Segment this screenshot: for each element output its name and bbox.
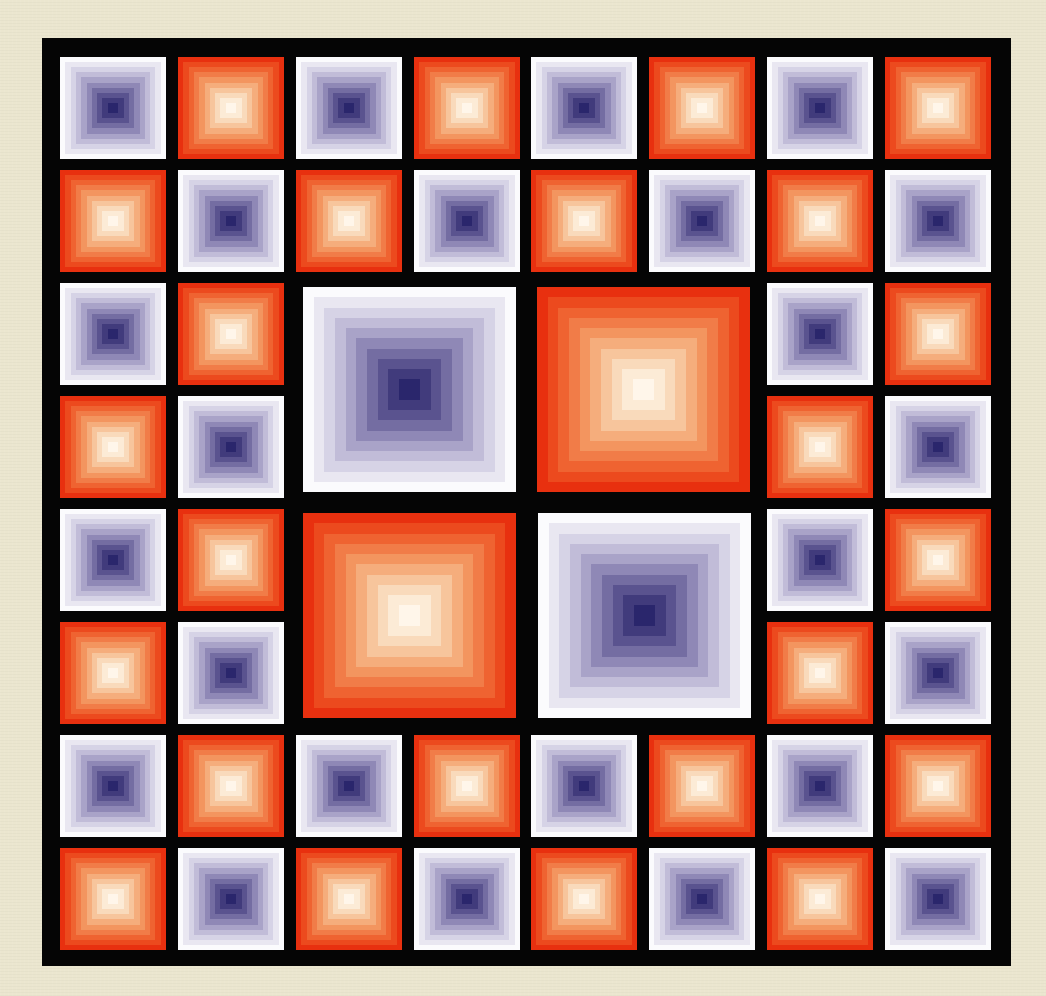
concentric-ring <box>633 379 654 400</box>
concentric-ring <box>815 329 826 339</box>
small-tile-cool <box>885 396 991 498</box>
small-tile-warm <box>531 848 637 950</box>
small-tile-warm <box>649 57 755 159</box>
small-tile-warm <box>767 396 873 498</box>
small-tile-cool <box>767 57 873 159</box>
concentric-ring <box>697 216 708 226</box>
concentric-ring <box>815 668 826 678</box>
small-tile-warm <box>885 735 991 837</box>
concentric-ring <box>226 103 237 113</box>
concentric-ring <box>815 555 826 565</box>
large-tile-bottom-left <box>303 513 516 718</box>
small-tile-cool <box>531 57 637 159</box>
small-tile-cool <box>178 848 284 950</box>
small-tile-cool <box>767 509 873 611</box>
small-tile-warm <box>767 848 873 950</box>
concentric-ring <box>933 216 944 226</box>
concentric-ring <box>108 216 119 226</box>
small-tile-warm <box>885 283 991 385</box>
small-tile-cool <box>531 735 637 837</box>
small-tile-warm <box>178 735 284 837</box>
concentric-ring <box>399 605 420 626</box>
concentric-ring <box>399 379 420 400</box>
concentric-ring <box>226 216 237 226</box>
concentric-ring <box>815 103 826 113</box>
small-tile-warm <box>767 622 873 724</box>
concentric-ring <box>933 103 944 113</box>
small-tile-warm <box>178 57 284 159</box>
concentric-ring <box>697 894 708 904</box>
small-tile-cool <box>60 509 166 611</box>
small-tile-cool <box>767 283 873 385</box>
small-tile-cool <box>885 848 991 950</box>
small-tile-cool <box>296 57 402 159</box>
small-tile-warm <box>414 57 520 159</box>
concentric-ring <box>226 329 237 339</box>
small-tile-cool <box>60 57 166 159</box>
concentric-ring <box>226 894 237 904</box>
concentric-ring <box>579 103 590 113</box>
small-tile-warm <box>60 396 166 498</box>
concentric-ring <box>108 103 119 113</box>
concentric-ring <box>815 442 826 452</box>
small-tile-warm <box>414 735 520 837</box>
concentric-ring <box>344 103 355 113</box>
concentric-ring <box>108 555 119 565</box>
small-tile-cool <box>885 170 991 272</box>
concentric-ring <box>697 103 708 113</box>
small-tile-warm <box>178 283 284 385</box>
concentric-ring <box>933 668 944 678</box>
large-tile-top-left <box>303 287 516 492</box>
concentric-ring <box>815 216 826 226</box>
concentric-ring <box>226 555 237 565</box>
concentric-ring <box>933 894 944 904</box>
small-tile-warm <box>649 735 755 837</box>
concentric-ring <box>815 894 826 904</box>
concentric-ring <box>108 894 119 904</box>
concentric-ring <box>226 781 237 791</box>
small-tile-cool <box>178 396 284 498</box>
large-tile-top-right <box>537 287 750 492</box>
small-tile-cool <box>414 170 520 272</box>
concentric-ring <box>933 329 944 339</box>
concentric-ring <box>462 103 473 113</box>
concentric-ring <box>933 555 944 565</box>
concentric-ring <box>579 781 590 791</box>
small-tile-warm <box>885 509 991 611</box>
concentric-ring <box>226 668 237 678</box>
small-tile-warm <box>60 170 166 272</box>
small-tile-cool <box>885 622 991 724</box>
concentric-ring <box>108 668 119 678</box>
concentric-ring <box>344 894 355 904</box>
small-tile-warm <box>60 622 166 724</box>
small-tile-cool <box>296 735 402 837</box>
small-tile-warm <box>60 848 166 950</box>
concentric-ring <box>344 216 355 226</box>
concentric-ring <box>634 605 655 626</box>
small-tile-warm <box>531 170 637 272</box>
concentric-ring <box>462 216 473 226</box>
small-tile-warm <box>767 170 873 272</box>
concentric-ring <box>697 781 708 791</box>
concentric-ring <box>579 216 590 226</box>
concentric-ring <box>579 894 590 904</box>
small-tile-warm <box>885 57 991 159</box>
small-tile-cool <box>178 170 284 272</box>
concentric-ring <box>108 442 119 452</box>
concentric-ring <box>108 329 119 339</box>
small-tile-cool <box>414 848 520 950</box>
small-tile-cool <box>178 622 284 724</box>
concentric-ring <box>815 781 826 791</box>
concentric-ring <box>226 442 237 452</box>
small-tile-cool <box>649 170 755 272</box>
small-tile-cool <box>767 735 873 837</box>
small-tile-cool <box>60 735 166 837</box>
concentric-ring <box>462 781 473 791</box>
small-tile-cool <box>649 848 755 950</box>
concentric-ring <box>933 781 944 791</box>
concentric-ring <box>344 781 355 791</box>
concentric-ring <box>462 894 473 904</box>
small-tile-cool <box>60 283 166 385</box>
small-tile-warm <box>178 509 284 611</box>
large-tile-bottom-right <box>538 513 751 718</box>
